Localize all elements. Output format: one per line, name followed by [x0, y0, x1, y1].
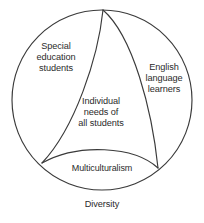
arc-special-education-boundary	[42, 10, 103, 163]
diagram-caption-diversity: Diversity	[52, 199, 152, 210]
region-label-individual-needs-of-all-students: Individual needs of all students	[68, 96, 134, 129]
region-label-special-education-students: Special education students	[24, 41, 88, 74]
diversity-venn-diagram: Special education students English langu…	[0, 0, 204, 223]
region-label-english-language-learners: English language learners	[136, 62, 192, 95]
region-label-multiculturalism: Multiculturalism	[48, 163, 156, 174]
